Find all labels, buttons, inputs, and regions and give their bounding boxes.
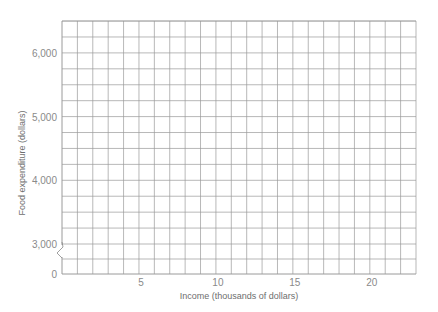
x-tick-label: 20 [366,277,378,288]
chart: 03,0004,0005,0006,000 5101520 Income (th… [0,0,438,312]
y-axis-label: Food expenditure (dollars) [17,110,27,215]
y-axis-ticks: 03,0004,0005,0006,000 [32,48,57,280]
x-axis-ticks: 5101520 [138,277,378,288]
y-tick-label: 0 [51,269,57,280]
y-tick-label: 6,000 [32,48,57,59]
x-axis-label: Income (thousands of dollars) [180,291,299,301]
x-tick-label: 15 [289,277,301,288]
x-tick-label: 5 [138,277,144,288]
x-tick-label: 10 [212,277,224,288]
axis-break-icon [56,242,64,258]
plot-grid [62,21,416,274]
y-tick-label: 4,000 [32,175,57,186]
y-tick-label: 3,000 [32,239,57,250]
y-tick-label: 5,000 [32,112,57,123]
